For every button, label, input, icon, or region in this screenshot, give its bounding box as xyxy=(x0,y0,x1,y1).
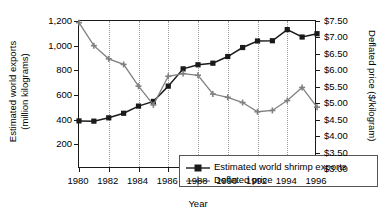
y-tick-label-right: $3.00 xyxy=(324,163,368,174)
y-tick-label-right: $7.00 xyxy=(324,31,368,42)
data-point-marker xyxy=(240,45,245,50)
x-tick-label: 1996 xyxy=(296,175,336,186)
data-point-marker xyxy=(255,38,260,43)
data-point-marker xyxy=(225,54,230,59)
y-tick-label-right: $4.00 xyxy=(324,130,368,141)
plot-area: Estimated world shrimp exports Deflated … xyxy=(78,20,316,168)
y-tick-label-left: 1,000 xyxy=(26,39,72,50)
y-tick-label-left: 400 xyxy=(26,113,72,124)
data-point-marker xyxy=(121,111,126,116)
data-point-marker xyxy=(210,61,215,66)
legend-marker-square-icon xyxy=(185,160,211,172)
data-point-marker xyxy=(136,104,141,109)
shrimp-exports-chart: Estimated world exports (million kilogra… xyxy=(0,0,390,218)
data-point-marker xyxy=(76,118,81,123)
data-point-marker xyxy=(300,34,305,39)
data-point-marker xyxy=(314,31,319,36)
y-tick-label-right: $7.50 xyxy=(324,15,368,26)
y-tick-label-left: 600 xyxy=(26,89,72,100)
y-tick-label-left: 800 xyxy=(26,64,72,75)
x-axis-title: Year xyxy=(78,198,318,209)
data-point-marker xyxy=(270,38,275,43)
y-tick-label-right: $6.00 xyxy=(324,64,368,75)
data-point-marker xyxy=(225,94,231,100)
y-tick-label-left: 1,200 xyxy=(26,15,72,26)
y-tick-label-right: $3.50 xyxy=(324,146,368,157)
data-point-marker xyxy=(195,62,200,67)
data-point-marker xyxy=(255,109,261,115)
data-point-marker xyxy=(91,119,96,124)
y-tick-label-right: $4.50 xyxy=(324,113,368,124)
y-axis-left-title-line1: Estimated world exports xyxy=(7,41,18,142)
y-tick-label-right: $5.00 xyxy=(324,97,368,108)
y-tick-label-left: 200 xyxy=(26,138,72,149)
data-point-marker xyxy=(240,100,246,106)
data-point-marker xyxy=(165,73,171,79)
data-point-marker xyxy=(285,27,290,32)
y-tick-label-right: $5.50 xyxy=(324,80,368,91)
series-lines xyxy=(79,21,317,169)
data-point-marker xyxy=(106,115,111,120)
y-tick-label-right: $6.50 xyxy=(324,47,368,58)
data-point-marker xyxy=(166,84,171,89)
